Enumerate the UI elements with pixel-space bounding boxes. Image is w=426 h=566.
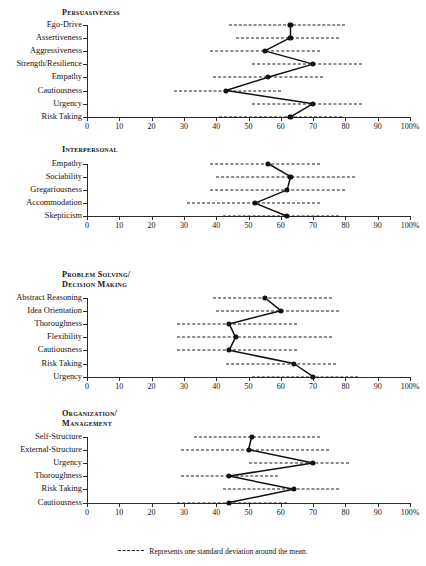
- panel-4-profile-line: [0, 0, 426, 566]
- assessment-profile-chart: PersuasivenessEgo-DriveAssertivenessAggr…: [0, 0, 426, 566]
